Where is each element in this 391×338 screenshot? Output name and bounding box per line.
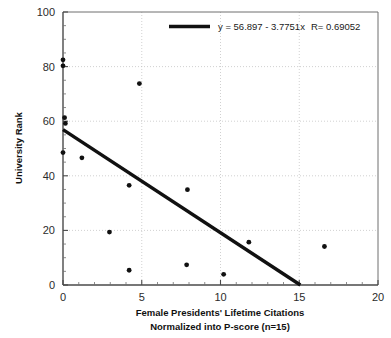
svg-text:10: 10 xyxy=(214,291,226,303)
data-point xyxy=(61,150,66,155)
scatter-plot: 05101520 020406080100 y = 56.897 - 3.775… xyxy=(0,0,391,338)
data-point xyxy=(322,244,327,249)
x-axis-title-line1: Female Presidents' Lifetime Citations xyxy=(136,307,305,318)
data-point xyxy=(62,115,67,120)
svg-text:0: 0 xyxy=(60,291,66,303)
svg-text:20: 20 xyxy=(43,224,55,236)
svg-text:5: 5 xyxy=(139,291,145,303)
data-point xyxy=(221,272,226,277)
svg-text:100: 100 xyxy=(37,6,55,18)
chart-figure: 05101520 020406080100 y = 56.897 - 3.775… xyxy=(0,0,391,338)
data-point xyxy=(63,121,68,126)
svg-text:60: 60 xyxy=(43,115,55,127)
data-point xyxy=(107,230,112,235)
data-point xyxy=(61,63,66,68)
legend-correlation-label: R= 0.69052 xyxy=(311,21,360,32)
plot-background xyxy=(63,12,378,285)
data-point xyxy=(185,187,190,192)
svg-text:15: 15 xyxy=(293,291,305,303)
svg-text:40: 40 xyxy=(43,170,55,182)
data-point xyxy=(127,183,132,188)
data-point xyxy=(246,240,251,245)
svg-text:0: 0 xyxy=(49,279,55,291)
data-point xyxy=(80,155,85,160)
data-point xyxy=(184,262,189,267)
svg-text:20: 20 xyxy=(372,291,384,303)
legend-equation-label: y = 56.897 - 3.7751x xyxy=(218,21,305,32)
data-point xyxy=(61,57,66,62)
x-axis-title-line2: Normalized into P-score (n=15) xyxy=(150,321,290,332)
x-axis-tick-labels: 05101520 xyxy=(60,291,384,303)
y-axis-title: University Rank xyxy=(13,111,24,184)
svg-text:80: 80 xyxy=(43,61,55,73)
data-point xyxy=(137,81,142,86)
y-axis-tick-labels: 020406080100 xyxy=(37,6,55,291)
data-point xyxy=(127,268,132,273)
